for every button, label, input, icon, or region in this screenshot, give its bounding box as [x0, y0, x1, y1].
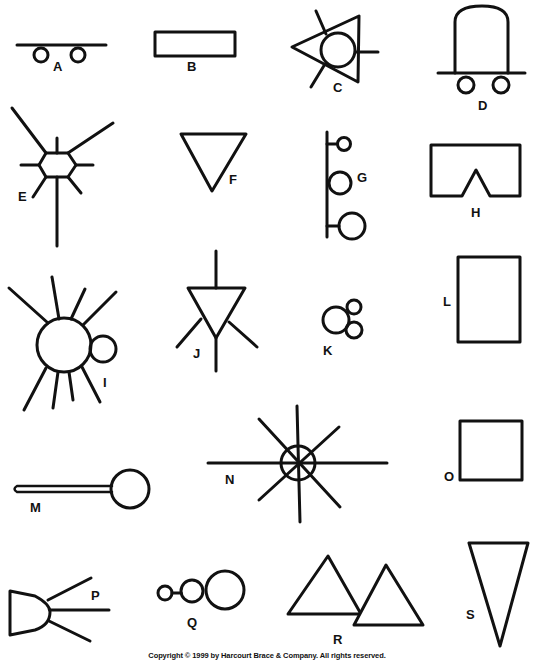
shape-s: S — [466, 543, 528, 646]
shape-o: O — [444, 421, 522, 484]
shape-a: A — [17, 45, 106, 74]
shape-r: R — [288, 556, 423, 647]
label-e: E — [18, 189, 27, 204]
label-c: C — [333, 80, 343, 95]
label-a: A — [53, 59, 63, 74]
label-o: O — [444, 469, 454, 484]
shape-k: K — [323, 300, 362, 358]
shape-b: B — [155, 32, 235, 74]
label-n: N — [225, 472, 234, 487]
shape-f: F — [181, 134, 246, 191]
label-i: I — [103, 375, 107, 390]
label-f: F — [229, 172, 237, 187]
label-j: J — [193, 346, 200, 361]
shape-i: I — [9, 277, 116, 410]
label-d: D — [478, 98, 487, 113]
shape-h: H — [431, 145, 520, 220]
shape-diagram: A B C D E F — [0, 0, 534, 663]
shape-d: D — [438, 6, 525, 113]
label-m: M — [30, 500, 41, 515]
shape-j: J — [177, 251, 257, 371]
shape-q: Q — [158, 571, 244, 630]
label-p: P — [91, 588, 100, 603]
label-k: K — [323, 343, 333, 358]
label-l: L — [443, 294, 451, 309]
shape-g: G — [327, 132, 367, 239]
shape-l: L — [443, 257, 520, 342]
label-b: B — [187, 59, 196, 74]
label-h: H — [471, 205, 480, 220]
label-r: R — [333, 632, 343, 647]
shape-e: E — [12, 108, 113, 246]
label-s: S — [466, 607, 475, 622]
copyright-notice: Copyright © 1999 by Harcourt Brace & Com… — [0, 651, 534, 660]
shape-m: M — [15, 470, 150, 515]
label-q: Q — [187, 615, 197, 630]
shape-n: N — [208, 406, 387, 522]
shape-c: C — [292, 11, 378, 95]
label-g: G — [357, 170, 367, 185]
shape-p: P — [10, 578, 109, 641]
